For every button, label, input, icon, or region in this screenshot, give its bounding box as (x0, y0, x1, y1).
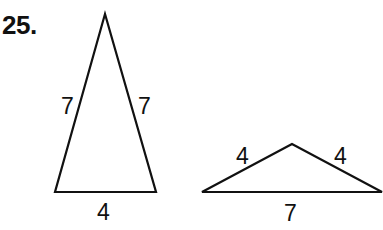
tall-isosceles-triangle: 7 7 4 (55, 14, 156, 225)
base-label: 7 (284, 200, 297, 226)
side-label-left: 4 (236, 143, 249, 169)
side-label-left: 7 (61, 93, 74, 119)
side-label-right: 7 (138, 93, 151, 119)
base-label: 4 (97, 199, 110, 225)
figures-canvas: 7 7 4 4 4 7 (0, 0, 383, 230)
wide-isosceles-triangle: 4 4 7 (202, 143, 382, 226)
side-label-right: 4 (334, 143, 347, 169)
